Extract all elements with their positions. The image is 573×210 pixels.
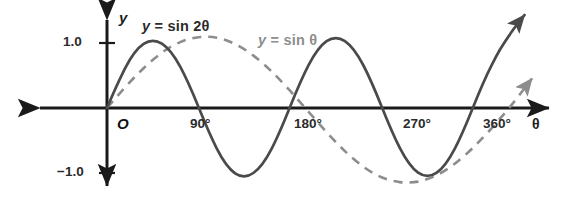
x-axis-label: θ <box>532 117 540 131</box>
sin-2theta-annotation: y = sin 2θ <box>142 19 209 34</box>
y-tick-label-positive-one: 1.0 <box>63 35 82 49</box>
curve-sin-theta <box>107 37 532 183</box>
sin-theta-annotation-rhs: = sin θ <box>266 32 317 48</box>
x-tick-label-360: 360° <box>483 117 511 131</box>
y-axis-label: y <box>119 10 127 25</box>
sin-theta-annotation: y = sin θ <box>258 33 317 48</box>
x-tick-label-270: 270° <box>403 117 431 131</box>
x-tick-label-180: 180° <box>294 117 322 131</box>
sin-theta-path <box>107 37 532 183</box>
sin-2theta-annotation-rhs: = sin 2θ <box>150 18 209 34</box>
origin-label: O <box>117 116 129 131</box>
x-tick-label-90: 90° <box>190 117 210 131</box>
sine-curves-figure: y θ O 1.0 −1.0 90° 180° 270° 360° y = si… <box>0 0 573 210</box>
y-tick-label-negative-one: −1.0 <box>57 165 84 179</box>
